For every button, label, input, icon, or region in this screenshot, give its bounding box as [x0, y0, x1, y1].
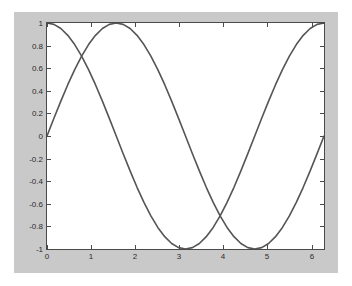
y-tick-label: 1 [14, 19, 43, 28]
x-tick-label: 2 [133, 252, 137, 261]
data-series-1 [47, 23, 324, 249]
x-tick-bottom [91, 245, 92, 249]
y-tick-label: 0 [14, 132, 43, 141]
y-tick-left [47, 136, 51, 137]
y-tick-label: 0.8 [14, 42, 43, 51]
y-tick-left [47, 46, 51, 47]
x-tick-label: 5 [265, 252, 269, 261]
x-tick-top [223, 23, 224, 27]
y-tick-right [320, 91, 324, 92]
curves-svg [47, 23, 324, 249]
x-tick-bottom [223, 245, 224, 249]
y-tick-label: -0.6 [14, 200, 43, 209]
y-tick-left [47, 249, 51, 250]
y-tick-label: -0.4 [14, 177, 43, 186]
y-tick-left [47, 204, 51, 205]
y-tick-label: -0.8 [14, 222, 43, 231]
y-tick-right [320, 159, 324, 160]
x-tick-label: 1 [89, 252, 93, 261]
figure-window: 0123456 10.80.60.40.20-0.2-0.4-0.6-0.8-1 [14, 12, 338, 273]
y-tick-right [320, 113, 324, 114]
x-tick-top [179, 23, 180, 27]
y-tick-left [47, 181, 51, 182]
y-tick-label: 0.2 [14, 109, 43, 118]
y-tick-right [320, 181, 324, 182]
y-tick-left [47, 226, 51, 227]
x-tick-label: 0 [45, 252, 49, 261]
y-tick-left [47, 159, 51, 160]
y-tick-label: -1 [14, 245, 43, 254]
y-tick-right [320, 204, 324, 205]
y-tick-right [320, 23, 324, 24]
plot-axes [46, 22, 325, 250]
x-tick-bottom [179, 245, 180, 249]
y-tick-right [320, 226, 324, 227]
y-tick-right [320, 68, 324, 69]
y-tick-left [47, 68, 51, 69]
x-tick-bottom [267, 245, 268, 249]
y-tick-label: 0.6 [14, 64, 43, 73]
x-tick-top [135, 23, 136, 27]
y-tick-left [47, 91, 51, 92]
x-tick-top [312, 23, 313, 27]
x-tick-bottom [312, 245, 313, 249]
y-tick-right [320, 136, 324, 137]
y-tick-left [47, 113, 51, 114]
y-tick-left [47, 23, 51, 24]
x-tick-label: 3 [177, 252, 181, 261]
x-tick-top [91, 23, 92, 27]
x-tick-top [267, 23, 268, 27]
x-tick-label: 6 [310, 252, 314, 261]
y-tick-right [320, 249, 324, 250]
x-tick-label: 4 [221, 252, 225, 261]
y-tick-label: -0.2 [14, 155, 43, 164]
y-tick-label: 0.4 [14, 87, 43, 96]
x-tick-bottom [135, 245, 136, 249]
y-tick-right [320, 46, 324, 47]
